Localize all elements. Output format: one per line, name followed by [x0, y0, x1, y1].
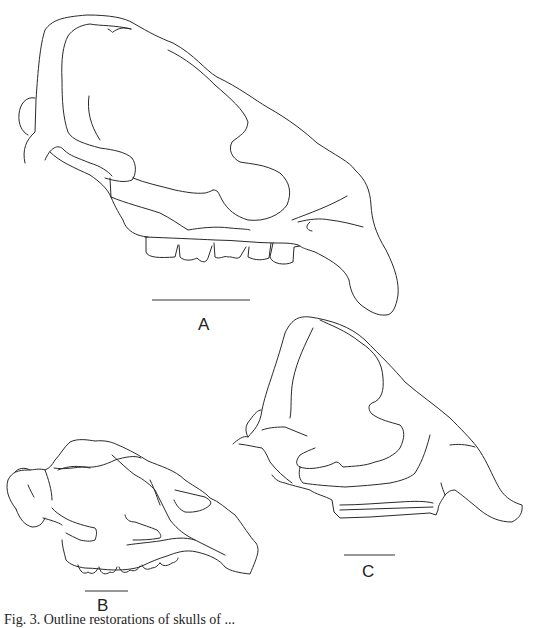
- figure-caption: Fig. 3. Outline restorations of skulls o…: [4, 612, 235, 628]
- panel-label-c: C: [362, 563, 374, 580]
- skull-b-drawing: [7, 440, 258, 574]
- skull-a-drawing: [19, 15, 398, 315]
- skull-c-drawing: [233, 317, 522, 522]
- panel-label-a: A: [198, 316, 209, 333]
